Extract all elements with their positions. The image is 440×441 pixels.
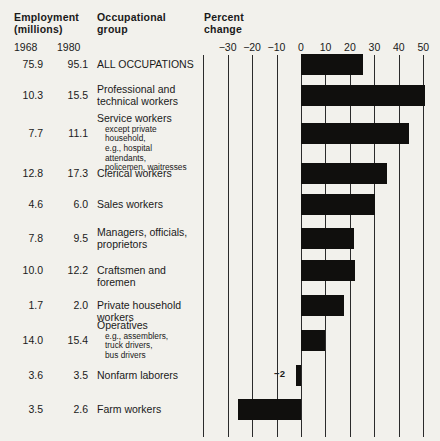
bar	[296, 365, 301, 386]
bar	[238, 399, 301, 420]
cell-occupational-group: Clerical workers	[97, 167, 195, 179]
cell-employment-1980: 17.3	[50, 167, 88, 179]
cell-employment-1968: 3.5	[5, 403, 43, 415]
cell-occupational-group: Sales workers	[97, 198, 195, 210]
bar	[301, 330, 325, 351]
occupational-group-name: Sales workers	[97, 198, 195, 210]
bar	[301, 163, 387, 184]
cell-employment-1968: 14.0	[5, 334, 43, 346]
occupational-group-name: Clerical workers	[97, 167, 195, 179]
cell-employment-1968: 7.7	[5, 127, 43, 139]
cell-occupational-group: Craftsmen and foremen	[97, 264, 195, 289]
cell-employment-1968: 4.6	[5, 198, 43, 210]
cell-employment-1980: 15.4	[50, 334, 88, 346]
cell-occupational-group: Operativese.g., assemblers,truck drivers…	[97, 319, 195, 360]
gridline-40	[399, 55, 400, 437]
cell-occupational-group: Professional and technical workers	[97, 83, 195, 108]
cell-employment-1980: 3.5	[50, 369, 88, 381]
cell-employment-1968: 7.8	[5, 232, 43, 244]
cell-employment-1968: 3.6	[5, 369, 43, 381]
occupational-group-detail: except private household,	[105, 125, 195, 144]
cell-employment-1968: 12.8	[5, 167, 43, 179]
gridline--30	[228, 55, 229, 437]
cell-employment-1980: 95.1	[50, 58, 88, 70]
bar	[301, 295, 344, 316]
occupational-group-name: Professional and technical workers	[97, 83, 195, 108]
cell-employment-1980: 15.5	[50, 89, 88, 101]
cell-employment-1980: 9.5	[50, 232, 88, 244]
gridline--40	[203, 55, 204, 437]
axis-tick-label-50: 50	[408, 41, 438, 53]
bar	[301, 54, 363, 75]
cell-occupational-group: Nonfarm laborers	[97, 369, 195, 381]
occupational-group-name: Farm workers	[97, 403, 195, 415]
occupational-group-name: Managers, officials, proprietors	[97, 226, 195, 251]
gridline-50	[423, 55, 424, 437]
bar	[301, 85, 425, 106]
occupational-group-name: Operatives	[97, 319, 195, 331]
occupational-group-name: Craftsmen and foremen	[97, 264, 195, 289]
occupational-group-name: ALL OCCUPATIONS	[97, 58, 195, 70]
occupational-group-name: Service workers	[97, 112, 195, 124]
cell-occupational-group: ALL OCCUPATIONS	[97, 58, 195, 70]
cell-employment-1980: 12.2	[50, 264, 88, 276]
gridline--20	[252, 55, 253, 437]
cell-employment-1980: 6.0	[50, 198, 88, 210]
gridline-30	[374, 55, 375, 437]
cell-employment-1980: 2.0	[50, 299, 88, 311]
cell-employment-1968: 10.0	[5, 264, 43, 276]
bar	[301, 123, 409, 144]
occupational-group-detail: bus drivers	[105, 351, 195, 361]
cell-occupational-group: Service workersexcept private household,…	[97, 112, 195, 172]
cell-employment-1968: 1.7	[5, 299, 43, 311]
cell-employment-1968: 75.9	[5, 58, 43, 70]
bar	[301, 228, 354, 249]
cell-employment-1968: 10.3	[5, 89, 43, 101]
gridline--10	[277, 55, 278, 437]
bar-value-label-nonfarm-laborers: −2	[274, 369, 285, 379]
bar	[301, 260, 355, 281]
occupational-group-detail: e.g., hospital attendants,	[105, 144, 195, 163]
cell-employment-1980: 2.6	[50, 403, 88, 415]
cell-employment-1980: 11.1	[50, 127, 88, 139]
occupational-group-name: Nonfarm laborers	[97, 369, 195, 381]
bar	[301, 194, 375, 215]
cell-occupational-group: Managers, officials, proprietors	[97, 226, 195, 251]
chart-figure: Employment (millions) Occupational group…	[0, 0, 440, 441]
cell-occupational-group: Farm workers	[97, 403, 195, 415]
